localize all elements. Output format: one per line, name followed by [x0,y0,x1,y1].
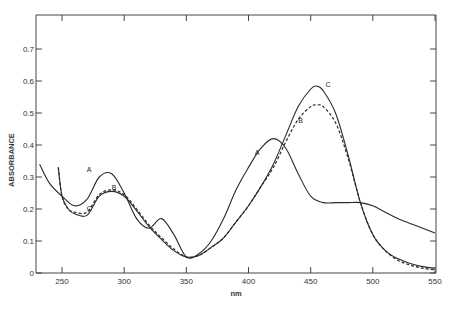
x-tick-label: 550 [428,277,442,286]
y-axis-title: ABSORBANCE [7,133,16,187]
x-tick-label: 400 [242,277,256,286]
y-tick-label: 0.4 [23,141,35,150]
y-tick-label: 0.5 [23,109,35,118]
y-tick-label: 0.1 [23,237,35,246]
y-tick-label: 0.6 [23,77,35,86]
curve-label-c: C [87,205,92,212]
absorbance-chart: 250300350400450500550 00.10.20.30.40.50.… [0,0,457,309]
x-tick-label: 250 [55,277,69,286]
plot-frame [36,15,436,273]
x-axis: 250300350400450500550 [55,15,442,286]
x-tick-label: 300 [117,277,131,286]
curve-label-a: A [87,166,92,173]
y-tick-label: 0.7 [23,45,35,54]
y-tick-label: 0.2 [23,205,35,214]
x-tick-label: 350 [180,277,194,286]
x-tick-label: 500 [366,277,380,286]
plot-curves [40,86,435,270]
curve-label-c: C [326,81,331,88]
curve-label-b: B [112,184,117,191]
x-tick-label: 450 [304,277,318,286]
curve-label-a: A [255,149,260,156]
x-axis-title: nm [230,289,242,298]
y-axis: 00.10.20.30.40.50.60.7 [23,45,436,278]
y-tick-label: 0.3 [23,173,35,182]
curve-label-b: B [298,117,303,124]
y-tick-label: 0 [30,269,35,278]
